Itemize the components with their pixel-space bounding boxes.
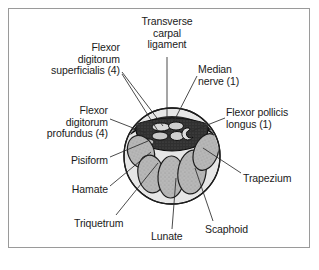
- label-trapezium: Trapezium: [243, 173, 309, 185]
- label-scaphoid: Scaphoid: [205, 224, 267, 236]
- anatomy-figure: Transverse carpal ligamentFlexor digitor…: [0, 0, 319, 270]
- label-pisiform: Pisiform: [44, 155, 108, 167]
- label-flexor-digitorum-superficialis: Flexor digitorum superficialis (4): [36, 42, 120, 77]
- label-transverse-carpal-ligament: Transverse carpal ligament: [131, 16, 203, 51]
- label-hamate: Hamate: [48, 184, 108, 196]
- label-flexor-pollicis-longus: Flexor pollicis longus (1): [226, 107, 308, 130]
- label-lunate: Lunate: [151, 231, 201, 243]
- label-flexor-digitorum-profundus: Flexor digitorum profundus (4): [26, 105, 108, 140]
- label-median-nerve: Median nerve (1): [198, 64, 268, 87]
- label-triquetrum: Triquetrum: [74, 218, 144, 230]
